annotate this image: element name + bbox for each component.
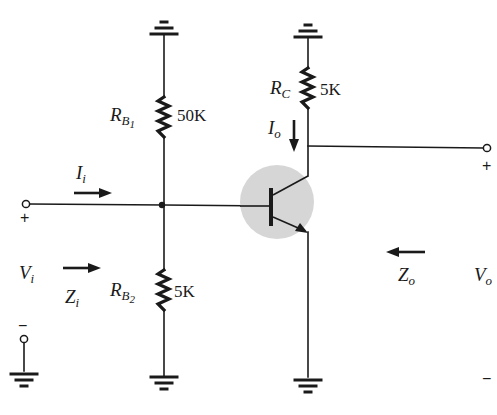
- arrow-zo-icon: [386, 247, 425, 257]
- resistor-rc: [302, 68, 313, 108]
- ground-symbol-top-right: [295, 25, 321, 37]
- circuit-schematic: [0, 0, 497, 415]
- arrow-zi-icon: [63, 263, 101, 273]
- label-zi: Zi: [65, 287, 79, 309]
- label-rb2: RB2: [110, 280, 135, 305]
- arrow-io-icon: [289, 120, 299, 152]
- output-minus-sign: −: [482, 371, 491, 387]
- ground-symbol-top-left: [151, 22, 177, 34]
- resistor-rb2: [158, 270, 169, 310]
- arrow-ii-icon: [74, 188, 112, 198]
- value-rc: 5K: [320, 81, 341, 98]
- wire-output: [308, 146, 483, 148]
- output-plus-sign: +: [482, 158, 491, 174]
- label-ii: Ii: [76, 163, 86, 185]
- label-vi: Vi: [19, 263, 34, 285]
- input-terminal-minus: [20, 335, 27, 342]
- ground-symbol-input: [11, 374, 37, 386]
- label-zo: Zo: [398, 265, 415, 287]
- input-plus-sign: +: [20, 210, 29, 226]
- label-rb1: RB1: [110, 105, 135, 130]
- label-rc: RC: [270, 78, 290, 100]
- resistor-rb1: [158, 97, 169, 137]
- input-terminal-plus: [22, 200, 29, 207]
- ground-symbol-bottom-right: [295, 380, 321, 392]
- label-io: Io: [268, 118, 281, 140]
- label-vo: Vo: [474, 265, 492, 287]
- junction-dot: [159, 202, 165, 208]
- ground-symbol-bottom-left: [151, 377, 177, 389]
- circuit-diagram: RB1 50K RB2 5K RC 5K Ii Io Vi Zi Zo Vo +…: [0, 0, 497, 415]
- input-minus-sign: −: [18, 318, 27, 334]
- value-rb2: 5K: [174, 283, 195, 300]
- wire-input: [30, 204, 164, 205]
- output-terminal-plus: [483, 144, 490, 151]
- value-rb1: 50K: [177, 107, 206, 124]
